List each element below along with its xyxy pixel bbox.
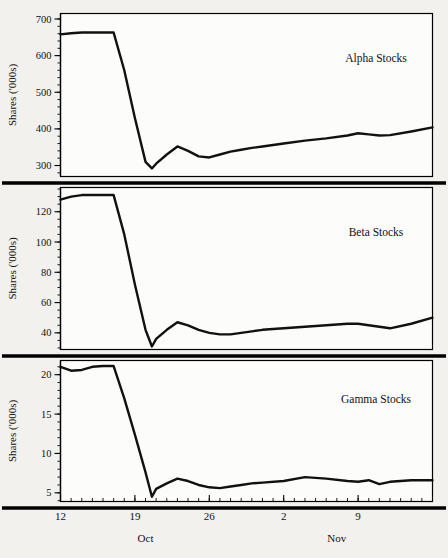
y-tick-label: 10 (41, 448, 52, 459)
y-axis-title: Shares ('000s) (6, 237, 19, 300)
x-month-label: Oct (138, 532, 154, 544)
y-tick-label: 100 (36, 237, 52, 248)
chart-panel-gamma-stocks: 5101520Shares ('000s)12192629OctNovGamma… (2, 361, 446, 544)
y-tick-label: 120 (36, 206, 52, 217)
plot-area (61, 361, 433, 502)
x-tick-label: 26 (204, 510, 216, 522)
y-tick-label: 400 (36, 123, 52, 134)
stock-charts-figure: 300400500600700Shares ('000s)Alpha Stock… (0, 0, 448, 558)
y-axis-title: Shares ('000s) (6, 400, 19, 463)
y-tick-label: 15 (41, 409, 52, 420)
x-tick-label: 2 (281, 510, 287, 522)
series-annotation: Beta Stocks (349, 226, 404, 238)
chart-panel-beta-stocks: 406080100120Shares ('000s)Beta Stocks (2, 188, 446, 357)
y-tick-label: 60 (41, 297, 52, 308)
y-tick-label: 300 (36, 160, 52, 171)
series-annotation: Alpha Stocks (345, 52, 407, 65)
y-tick-label: 5 (46, 487, 51, 498)
y-tick-label: 700 (36, 14, 52, 25)
x-tick-label: 19 (129, 510, 141, 522)
y-tick-label: 80 (41, 267, 52, 278)
plot-area (61, 188, 433, 350)
y-tick-label: 500 (36, 87, 52, 98)
x-month-label: Nov (327, 532, 346, 544)
x-tick-label: 9 (355, 510, 361, 522)
y-axis-title: Shares ('000s) (6, 64, 19, 127)
x-tick-label: 12 (55, 510, 66, 522)
y-tick-label: 600 (36, 50, 52, 61)
series-annotation: Gamma Stocks (341, 393, 411, 405)
y-tick-label: 40 (41, 327, 52, 338)
chart-panel-alpha-stocks: 300400500600700Shares ('000s)Alpha Stock… (2, 14, 446, 184)
y-tick-label: 20 (41, 369, 52, 380)
figure-canvas: 300400500600700Shares ('000s)Alpha Stock… (0, 0, 448, 558)
